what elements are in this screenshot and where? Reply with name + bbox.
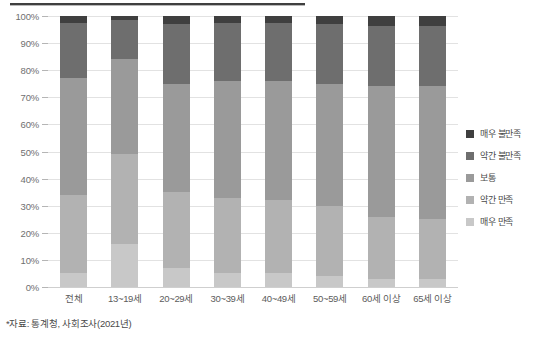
- bar-slot: [356, 16, 407, 287]
- bar-segment[interactable]: [111, 20, 138, 59]
- legend-swatch-icon: [466, 196, 474, 204]
- bar-segment[interactable]: [214, 273, 241, 287]
- x-axis-label: 30~39세: [202, 291, 253, 305]
- bar-segment[interactable]: [60, 195, 87, 274]
- y-axis-label: 0%: [26, 282, 39, 293]
- plot-area: 100%90%80%70%60%50%40%30%20%10%0%: [48, 16, 458, 287]
- bar-slot: [202, 16, 253, 287]
- bar-segment[interactable]: [316, 16, 343, 24]
- x-axis-label: 20~29세: [151, 291, 202, 305]
- bar-segment[interactable]: [60, 78, 87, 195]
- stacked-bar[interactable]: [419, 16, 446, 287]
- bar-segment[interactable]: [419, 26, 446, 87]
- stacked-bar[interactable]: [111, 16, 138, 287]
- chart-legend: 매우 불만족약간 불만족보통약간 만족매우 만족: [466, 127, 521, 228]
- bar-slot: [48, 16, 99, 287]
- y-axis-label: 10%: [21, 254, 39, 265]
- x-axis-label: 50~59세: [304, 291, 355, 305]
- bar-segment[interactable]: [163, 16, 190, 24]
- bar-segment[interactable]: [368, 16, 395, 25]
- source-footnote: *자료: 통계청, 사회조사(2021년): [6, 316, 131, 330]
- bar-segment[interactable]: [316, 206, 343, 276]
- stacked-bar[interactable]: [163, 16, 190, 287]
- bar-segment[interactable]: [60, 16, 87, 23]
- y-axis-label: 60%: [21, 119, 39, 130]
- bar-segment[interactable]: [316, 84, 343, 206]
- bar-segment[interactable]: [265, 81, 292, 200]
- x-axis-label: 13~19세: [99, 291, 150, 305]
- bar-segment[interactable]: [111, 154, 138, 243]
- bar-segment[interactable]: [265, 273, 292, 287]
- bar-segment[interactable]: [368, 26, 395, 87]
- legend-item-label: 매우 만족: [480, 215, 513, 228]
- gridline: [48, 287, 458, 288]
- legend-swatch-icon: [466, 218, 474, 226]
- y-axis-label: 40%: [21, 173, 39, 184]
- bar-slot: [99, 16, 150, 287]
- legend-item[interactable]: 약간 만족: [466, 193, 521, 206]
- top-divider-rule-shadow: [10, 5, 305, 6]
- legend-swatch-icon: [466, 130, 474, 138]
- bar-segment[interactable]: [419, 16, 446, 25]
- bar-segment[interactable]: [316, 24, 343, 84]
- y-axis-label: 100%: [16, 11, 40, 22]
- bar-segment[interactable]: [111, 59, 138, 154]
- chart-page: 100%90%80%70%60%50%40%30%20%10%0% 전체13~1…: [0, 0, 551, 338]
- x-axis-label: 60세 이상: [356, 291, 407, 305]
- bar-segment[interactable]: [214, 198, 241, 274]
- bar-segment[interactable]: [60, 273, 87, 287]
- bar-slot: [151, 16, 202, 287]
- y-axis-label: 50%: [21, 146, 39, 157]
- bar-segment[interactable]: [265, 200, 292, 273]
- y-axis-label: 20%: [21, 227, 39, 238]
- legend-item-label: 보통: [480, 171, 495, 184]
- x-axis-label: 65세 이상: [407, 291, 458, 305]
- legend-item[interactable]: 보통: [466, 171, 521, 184]
- bar-segment[interactable]: [163, 192, 190, 268]
- bar-segment[interactable]: [214, 81, 241, 198]
- bar-segment[interactable]: [368, 217, 395, 279]
- bar-segment[interactable]: [419, 279, 446, 287]
- legend-item-label: 약간 만족: [480, 193, 513, 206]
- bar-slot: [253, 16, 304, 287]
- stacked-bar[interactable]: [214, 16, 241, 287]
- bar-segment[interactable]: [214, 23, 241, 81]
- y-axis-label: 70%: [21, 92, 39, 103]
- bar-segment[interactable]: [60, 23, 87, 79]
- bar-segment[interactable]: [111, 244, 138, 287]
- bar-segment[interactable]: [265, 23, 292, 81]
- bar-segment[interactable]: [163, 268, 190, 287]
- y-axis-tick: [42, 287, 48, 288]
- y-axis-label: 30%: [21, 200, 39, 211]
- legend-item[interactable]: 약간 불만족: [466, 149, 521, 162]
- x-axis-label: 전체: [48, 291, 99, 305]
- bar-segment[interactable]: [419, 86, 446, 219]
- bar-segment[interactable]: [368, 279, 395, 287]
- stacked-bar[interactable]: [265, 16, 292, 287]
- bar-segment[interactable]: [163, 24, 190, 84]
- bar-group: [48, 16, 458, 287]
- bar-segment[interactable]: [316, 276, 343, 287]
- legend-swatch-icon: [466, 152, 474, 160]
- bar-slot: [407, 16, 458, 287]
- y-axis-label: 90%: [21, 38, 39, 49]
- bar-segment[interactable]: [368, 86, 395, 216]
- legend-item[interactable]: 매우 만족: [466, 215, 521, 228]
- y-axis-label: 80%: [21, 65, 39, 76]
- legend-item-label: 약간 불만족: [480, 149, 521, 162]
- stacked-bar[interactable]: [316, 16, 343, 287]
- bar-segment[interactable]: [163, 84, 190, 192]
- stacked-bar[interactable]: [368, 16, 395, 287]
- x-axis-label: 40~49세: [253, 291, 304, 305]
- legend-swatch-icon: [466, 174, 474, 182]
- bar-slot: [304, 16, 355, 287]
- bar-segment[interactable]: [214, 16, 241, 23]
- legend-item[interactable]: 매우 불만족: [466, 127, 521, 140]
- stacked-bar[interactable]: [60, 16, 87, 287]
- bar-segment[interactable]: [419, 219, 446, 279]
- bar-segment[interactable]: [265, 16, 292, 23]
- legend-item-label: 매우 불만족: [480, 127, 521, 140]
